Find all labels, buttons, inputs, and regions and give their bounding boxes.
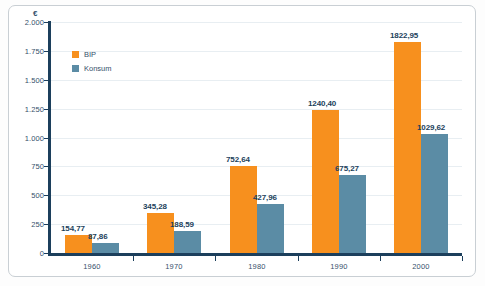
data-label-bip-1980: 752,64: [226, 155, 250, 164]
bar-konsum-2000[interactable]: [421, 134, 448, 253]
x-axis-tick: [380, 256, 381, 261]
bar-bip-2000[interactable]: [394, 42, 421, 253]
x-axis-tick: [215, 256, 216, 261]
data-label-bip-1990: 1240,40: [308, 99, 336, 108]
x-axis-tick: [462, 256, 463, 261]
chart-legend: BIPKonsum: [72, 50, 112, 78]
legend-swatch-icon: [72, 65, 79, 72]
x-axis-label-1960: 1960: [62, 262, 122, 271]
x-axis-tick: [298, 256, 299, 261]
bar-bip-1980[interactable]: [230, 166, 257, 253]
bar-konsum-1990[interactable]: [339, 175, 366, 253]
bar-bip-1990[interactable]: [312, 110, 339, 253]
legend-label: BIP: [84, 50, 96, 59]
data-label-konsum-1980: 427,96: [253, 193, 277, 202]
legend-item-bip[interactable]: BIP: [72, 50, 112, 59]
bars-layer: 154,7787,86345,28188,59752,64427,961240,…: [0, 0, 485, 286]
data-label-bip-1960: 154,77: [61, 224, 85, 233]
bar-konsum-1970[interactable]: [174, 231, 201, 253]
x-axis-label-2000: 2000: [391, 262, 451, 271]
chart-screenshot: € 02505007501.0001.2501.5001.7502.000 15…: [0, 0, 485, 286]
data-label-bip-1970: 345,28: [143, 202, 167, 211]
bar-konsum-1980[interactable]: [257, 204, 284, 253]
x-axis-label-1990: 1990: [309, 262, 369, 271]
data-label-konsum-1960: 87,86: [88, 232, 108, 241]
data-label-konsum-1970: 188,59: [170, 220, 194, 229]
data-label-konsum-1990: 675,27: [335, 164, 359, 173]
data-label-konsum-2000: 1029,62: [417, 123, 445, 132]
bar-konsum-1960[interactable]: [92, 243, 119, 253]
legend-swatch-icon: [72, 51, 79, 58]
x-axis-label-1980: 1980: [227, 262, 287, 271]
bar-bip-1970[interactable]: [147, 213, 174, 253]
legend-item-konsum[interactable]: Konsum: [72, 64, 112, 73]
x-axis-label-1970: 1970: [144, 262, 204, 271]
legend-label: Konsum: [84, 64, 112, 73]
data-label-bip-2000: 1822,95: [390, 31, 418, 40]
x-axis-tick: [133, 256, 134, 261]
